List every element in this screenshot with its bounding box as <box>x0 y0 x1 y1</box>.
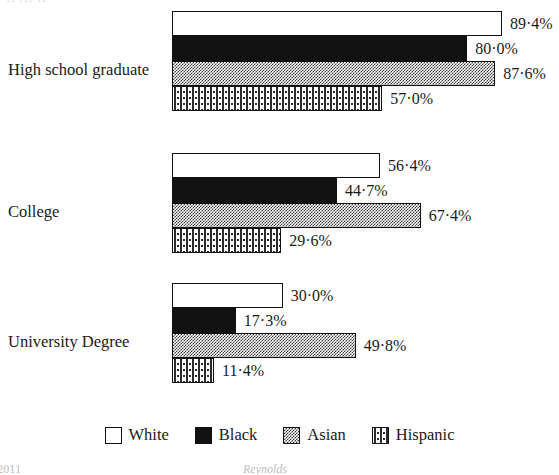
category-label: College <box>8 204 59 221</box>
cropped-header-text: ·· ··· ·· <box>6 0 46 2</box>
bar-value-label: 17·3% <box>244 313 287 329</box>
legend-swatch-hispanic <box>372 427 389 444</box>
bar-black <box>172 36 467 61</box>
bar-black <box>172 308 236 333</box>
bar-white <box>172 11 502 36</box>
legend-label: White <box>129 427 169 444</box>
bar-black <box>172 178 337 203</box>
bar-asian <box>172 61 495 86</box>
bar-value-label: 44·7% <box>345 183 388 199</box>
chart-legend: WhiteBlackAsianHispanic <box>0 427 559 444</box>
legend-item-hispanic[interactable]: Hispanic <box>372 427 455 444</box>
cropped-footer-left-text: /2011 <box>0 462 21 475</box>
category-label: High school graduate <box>8 62 149 79</box>
bar-chart: ·· ··· ·· High school graduate89·4%80·0%… <box>0 0 559 475</box>
legend-label: Asian <box>307 427 346 444</box>
bar-asian <box>172 203 421 228</box>
bar-value-label: 49·8% <box>364 338 407 354</box>
bar-value-label: 56·4% <box>388 158 431 174</box>
bar-value-label: 29·6% <box>289 233 332 249</box>
bar-value-label: 67·4% <box>429 208 472 224</box>
legend-label: Black <box>219 427 258 444</box>
legend-label: Hispanic <box>396 427 455 444</box>
bar-value-label: 89·4% <box>510 16 553 32</box>
legend-item-asian[interactable]: Asian <box>283 427 346 444</box>
bar-value-label: 87·6% <box>503 66 546 82</box>
legend-swatch-white <box>105 427 122 444</box>
bar-hispanic <box>172 228 281 253</box>
legend-swatch-black <box>195 427 212 444</box>
legend-item-white[interactable]: White <box>105 427 169 444</box>
category-label: University Degree <box>8 334 129 351</box>
bar-white <box>172 153 380 178</box>
cropped-footer-center-text: Reynolds <box>243 462 287 475</box>
bar-value-label: 57·0% <box>390 91 433 107</box>
bar-hispanic <box>172 86 382 111</box>
bar-hispanic <box>172 358 214 383</box>
legend-swatch-asian <box>283 427 300 444</box>
bar-value-label: 11·4% <box>222 363 264 379</box>
bar-white <box>172 283 283 308</box>
bar-value-label: 80·0% <box>475 41 518 57</box>
legend-item-black[interactable]: Black <box>195 427 258 444</box>
bar-asian <box>172 333 356 358</box>
bar-value-label: 30·0% <box>291 288 334 304</box>
